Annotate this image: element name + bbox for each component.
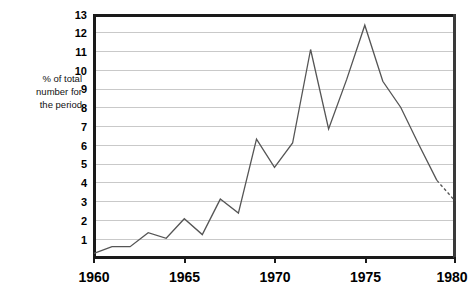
y-tick-label-6: 6 (81, 140, 87, 152)
y-tick-label-3: 3 (81, 196, 87, 208)
x-tick-label-1970: 1970 (259, 269, 290, 285)
x-axis-tick-labels: 1960 1965 1970 1975 1980 (78, 269, 467, 285)
y-tick-label-7: 7 (81, 121, 87, 133)
x-tick-label-1975: 1975 (350, 269, 381, 285)
gridlines (94, 33, 455, 239)
x-tick-label-1960: 1960 (78, 269, 109, 285)
line-chart: % of total number for the period 13 12 1… (0, 0, 476, 290)
x-tick-label-1980: 1980 (436, 269, 467, 285)
y-axis-label-line-2: number for (6, 85, 82, 98)
y-axis-label-line-3: the period (6, 98, 82, 111)
y-tick-label-13: 13 (75, 9, 87, 21)
y-tick-label-2: 2 (81, 215, 87, 227)
y-axis-label-line-1: % of total (6, 72, 82, 85)
y-tick-label-11: 11 (75, 46, 87, 58)
x-tick-label-1965: 1965 (169, 269, 200, 285)
data-line-dashed-projection (437, 180, 455, 201)
data-line-solid (94, 25, 437, 253)
y-tick-label-1: 1 (81, 234, 87, 246)
y-tick-label-5: 5 (81, 158, 87, 170)
plot-frame (93, 14, 456, 258)
y-axis-label: % of total number for the period (6, 72, 82, 111)
y-tick-label-12: 12 (75, 27, 87, 39)
y-axis-tick-labels: 13 12 11 10 9 8 7 6 5 4 3 2 1 (75, 9, 88, 246)
chart-svg: 13 12 11 10 9 8 7 6 5 4 3 2 1 (0, 0, 476, 290)
data-series-line (94, 25, 455, 253)
y-tick-label-4: 4 (81, 177, 88, 189)
